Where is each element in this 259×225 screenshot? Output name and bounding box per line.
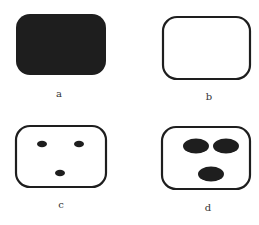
panel-a: a: [16, 14, 106, 99]
outline-shape: [16, 126, 106, 187]
large-spot: [213, 139, 239, 154]
outline-shape: [163, 17, 250, 79]
small-spot: [74, 141, 84, 147]
panel-label-d: d: [205, 202, 212, 213]
small-spot: [55, 170, 65, 176]
panel-label-a: a: [56, 88, 62, 99]
diagram-canvas: a b c d: [0, 0, 259, 225]
large-spot: [183, 139, 209, 154]
panel-b: b: [163, 17, 250, 102]
panel-label-c: c: [58, 199, 64, 210]
panel-label-b: b: [206, 91, 212, 102]
filled-shape: [16, 14, 106, 75]
panel-c: c: [16, 126, 106, 210]
panel-d: d: [162, 127, 250, 213]
small-spot: [37, 141, 47, 147]
large-spot: [198, 167, 224, 182]
